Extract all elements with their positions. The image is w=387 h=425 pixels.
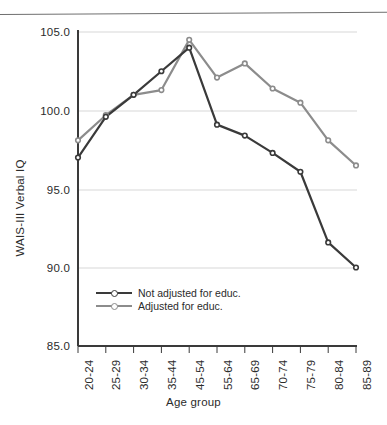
x-tick-label: 55-64 — [222, 360, 234, 390]
legend-swatch-dark-line-icon — [96, 287, 132, 299]
x-axis-title: Age group — [0, 396, 387, 408]
series-line-not-adjusted — [78, 48, 356, 268]
data-point — [243, 133, 248, 138]
data-point — [270, 151, 275, 156]
x-tick-label: 30-34 — [138, 360, 150, 390]
legend-label: Adjusted for educ. — [138, 300, 223, 312]
data-point — [76, 138, 81, 143]
data-point — [270, 86, 275, 91]
data-point — [326, 240, 331, 245]
x-tick-label: 35-44 — [166, 360, 178, 390]
series-line-adjusted — [78, 40, 356, 166]
data-point — [326, 138, 331, 143]
x-tick-label: 85-89 — [361, 360, 373, 390]
gridlines — [78, 32, 357, 268]
x-axis-ticks — [78, 346, 356, 353]
x-tick-label: 75-79 — [305, 360, 317, 390]
legend-label: Not adjusted for educ. — [138, 287, 241, 299]
data-point — [159, 69, 164, 74]
data-point — [215, 122, 220, 127]
data-point — [215, 75, 220, 80]
data-point — [76, 155, 81, 160]
legend-item-adjusted: Adjusted for educ. — [96, 299, 241, 312]
data-point — [187, 45, 192, 50]
data-point — [298, 169, 303, 174]
data-point — [354, 163, 359, 168]
series-lines — [76, 38, 359, 270]
x-tick-label: 20-24 — [83, 360, 95, 390]
data-point — [131, 93, 136, 98]
legend-swatch-gray-line-icon — [96, 300, 132, 312]
series-markers-adjusted — [76, 38, 359, 168]
x-tick-label: 70-74 — [277, 360, 289, 390]
chart-legend: Not adjusted for educ. Adjusted for educ… — [96, 286, 241, 312]
data-point — [104, 114, 109, 119]
x-tick-label: 45-54 — [194, 360, 206, 390]
data-point — [243, 61, 248, 66]
data-point — [298, 100, 303, 105]
x-tick-label: 25-29 — [110, 360, 122, 390]
data-point — [159, 88, 164, 93]
data-point — [354, 265, 359, 270]
legend-item-not-adjusted: Not adjusted for educ. — [96, 286, 241, 299]
x-tick-label: 80-84 — [333, 360, 345, 390]
data-point — [187, 38, 192, 43]
figure-wais-verbal-iq-by-age: 105.0 100.0 95.0 90.0 85.0 WAIS-III Verb… — [0, 0, 387, 425]
x-tick-label: 65-69 — [249, 360, 261, 390]
